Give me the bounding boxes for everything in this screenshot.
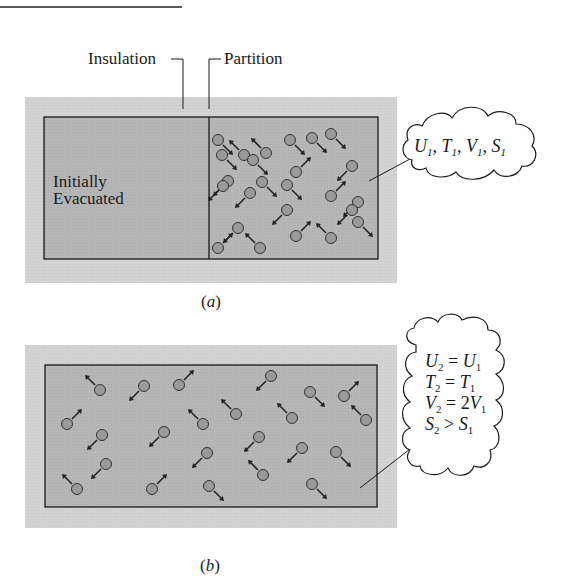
entropy-free-expansion-figure: Initially Evacuated Insulation Partition… [0,0,570,585]
caption-a: (a) [201,292,221,311]
caption-b: (b) [200,556,220,575]
eq-t: T2 = T1 [425,372,475,394]
eq-v: V2 = 2V1 [425,393,486,415]
evacuated-label-line2: Evacuated [53,189,124,208]
eq-s: S2 > S1 [425,414,473,436]
panel-a: Initially Evacuated Insulation Partition… [25,49,536,311]
insulation-label: Insulation [88,49,156,68]
partition-label: Partition [224,49,283,68]
eq-u: U2 = U1 [425,351,481,373]
panel-b: U2 = U1 T2 = T1 V2 = 2V1 S2 > S1 (b) [25,314,504,575]
